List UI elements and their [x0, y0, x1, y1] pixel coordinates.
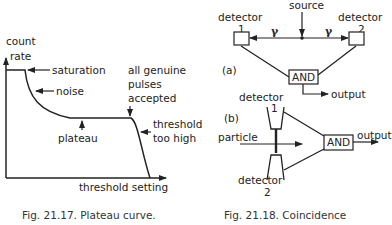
- wire-d2-and-b: [284, 149, 324, 170]
- wire-d2-and-a: [318, 46, 356, 75]
- wire-d1-and-b: [284, 112, 324, 136]
- detector1-a-label: detector: [218, 11, 263, 23]
- detector1-a-box: [234, 32, 249, 45]
- and-gate-b-label: AND: [327, 136, 350, 148]
- plateau-label: plateau: [58, 132, 98, 144]
- part-a-label: (a): [222, 64, 237, 76]
- accepted-label-line1: all genuine: [128, 64, 186, 76]
- coincidence-figure: source γ γ detector 1 detector 2 AND (a)…: [218, 0, 392, 221]
- output-b-label: output: [357, 129, 392, 141]
- output-wire-a: [303, 84, 328, 94]
- too-high-label-line2: too high: [153, 132, 196, 144]
- too-high-label-line1: threshold: [153, 118, 202, 130]
- figures-canvas: count rate saturation noise plateau all …: [0, 0, 392, 225]
- caption-coincidence: Fig. 21.18. Coincidence: [224, 209, 346, 221]
- detector2-b-label: detector: [238, 174, 283, 186]
- and-gate-a-label: AND: [292, 71, 315, 83]
- part-b-label: (b): [224, 112, 239, 124]
- gamma-right-label: γ: [325, 25, 333, 38]
- detector2-b-number: 2: [264, 186, 271, 198]
- particle-label: particle: [218, 131, 258, 143]
- accepted-label-line2: pulses: [128, 78, 162, 90]
- plateau-curve-figure: count rate saturation noise plateau all …: [6, 35, 202, 221]
- detector1-b-number: 1: [271, 102, 278, 114]
- x-axis-label: threshold setting: [79, 181, 168, 193]
- wire-d1-and-a: [241, 46, 289, 77]
- y-axis-label-count: count: [6, 35, 36, 47]
- detector2-a-box: [349, 32, 364, 45]
- noise-label: noise: [56, 85, 84, 97]
- gamma-left-label: γ: [271, 25, 279, 38]
- detector2-a-label: detector: [338, 11, 383, 23]
- source-label: source: [289, 0, 324, 11]
- saturation-label: saturation: [52, 64, 106, 76]
- accepted-label-line3: accepted: [128, 92, 176, 104]
- caption-plateau: Fig. 21.17. Plateau curve.: [22, 209, 156, 221]
- output-a-label: output: [331, 88, 366, 100]
- y-axis-label-rate: rate: [10, 50, 31, 62]
